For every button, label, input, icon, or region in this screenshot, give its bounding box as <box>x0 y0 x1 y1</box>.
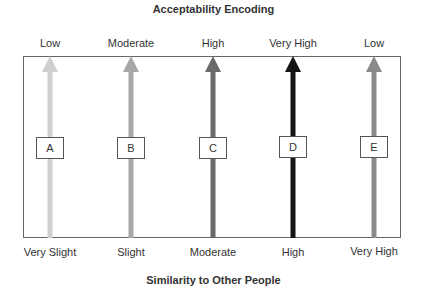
similarity-label-b: Slight <box>86 246 176 258</box>
similarity-label-e: Very High <box>329 245 419 257</box>
box-d: D <box>279 136 307 158</box>
box-b: B <box>117 137 145 159</box>
similarity-label-a: Very Slight <box>5 246 95 258</box>
similarity-label-d: High <box>248 246 338 258</box>
box-a: A <box>36 137 64 159</box>
box-c: C <box>199 137 227 159</box>
box-e: E <box>360 136 388 158</box>
x-axis-title: Similarity to Other People <box>0 274 427 286</box>
similarity-label-c: Moderate <box>168 246 258 258</box>
